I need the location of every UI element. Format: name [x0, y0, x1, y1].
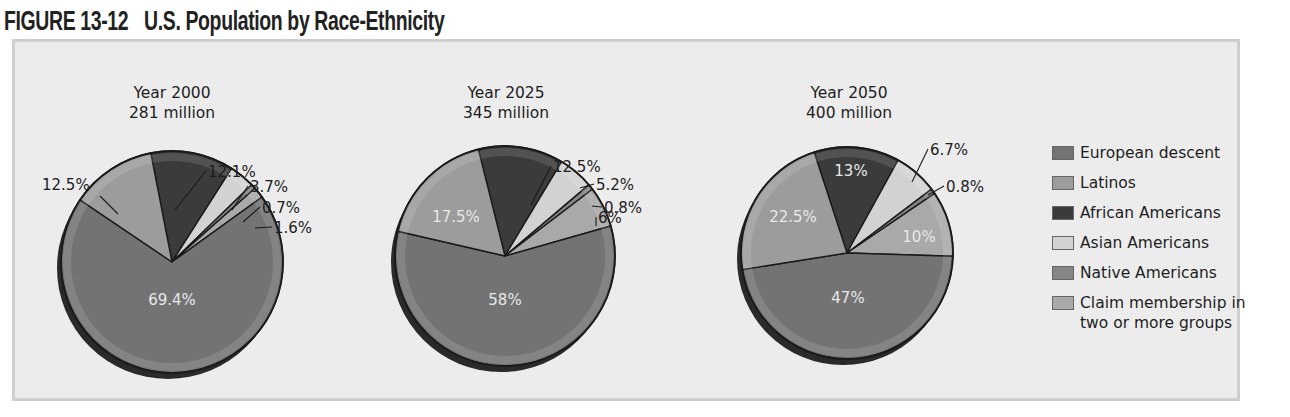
slice-label: 0.7% [262, 199, 300, 217]
slice-label: 12.5% [553, 158, 601, 176]
legend-item-african-americans: African Americans [1052, 203, 1246, 233]
legend-swatch [1052, 296, 1074, 310]
slice-label: 5.2% [596, 176, 634, 194]
pie-year-2050: 13%6.7%0.8%10%47%22.5% [737, 141, 984, 365]
legend-swatch [1052, 236, 1074, 250]
legend-item-asian-americans: Asian Americans [1052, 233, 1246, 263]
pie-2000-year: Year 2000 [92, 83, 252, 103]
slice-label: 0.8% [946, 178, 984, 196]
legend-swatch [1052, 146, 1074, 160]
pie-2050-caption: Year 2050 400 million [769, 83, 929, 123]
slice-label: 47% [831, 289, 864, 307]
slice-label: 22.5% [769, 208, 817, 226]
legend-swatch [1052, 206, 1074, 220]
legend-swatch [1052, 176, 1074, 190]
slice-label: 58% [488, 291, 521, 309]
slice-label: 6% [598, 209, 622, 227]
pie-2025-total: 345 million [426, 103, 586, 123]
slice-label: 69.4% [148, 291, 196, 309]
legend-swatch [1052, 266, 1074, 280]
legend-item-native-americans: Native Americans [1052, 263, 1246, 293]
pie-year-2000: 12.1%3.7%0.7%1.6%69.4%12.5% [42, 151, 312, 379]
pie-2025-caption: Year 2025 345 million [426, 83, 586, 123]
pie-year-2025: 12.5%5.2%0.8%6%58%17.5% [391, 146, 642, 372]
legend: European descent Latinos African America… [1052, 143, 1246, 337]
pie-2050-total: 400 million [769, 103, 929, 123]
pie-2000-total: 281 million [92, 103, 252, 123]
slice-label: 10% [902, 228, 935, 246]
slice-label: 6.7% [930, 141, 968, 159]
pie-2025-year: Year 2025 [426, 83, 586, 103]
legend-item-multiple-groups: Claim membership in two or more groups [1052, 293, 1246, 337]
pie-2000-caption: Year 2000 281 million [92, 83, 252, 123]
slice-label: 3.7% [250, 178, 288, 196]
pie-2050-year: Year 2050 [769, 83, 929, 103]
slice-label: 12.1% [208, 163, 256, 181]
slice-label: 13% [834, 162, 867, 180]
legend-item-latinos: Latinos [1052, 173, 1246, 203]
slice-label: 1.6% [274, 219, 312, 237]
slice-label: 17.5% [432, 208, 480, 226]
slice-label: 12.5% [42, 176, 90, 194]
legend-item-european: European descent [1052, 143, 1246, 173]
